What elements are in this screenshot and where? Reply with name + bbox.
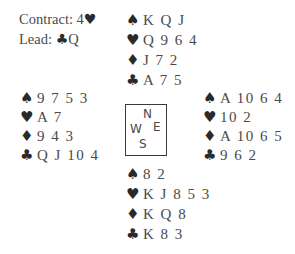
club-icon: ♣ (20, 145, 34, 165)
east-clubs-cards: 9 6 2 (220, 145, 258, 165)
club-icon: ♣ (126, 70, 140, 90)
south-spades-cards: 8 2 (143, 164, 166, 184)
east-hearts-cards: 10 2 (220, 107, 252, 127)
north-hearts-cards: Q 9 6 4 (143, 30, 198, 50)
compass-north: N (143, 108, 152, 120)
contract-label: Contract: (19, 11, 73, 27)
north-clubs-cards: A 7 5 (143, 70, 183, 90)
west-spades-cards: 9 7 5 3 (37, 88, 89, 108)
diamond-icon: ♦ (126, 204, 140, 224)
north-spades-cards: K Q J (143, 10, 186, 30)
west-clubs-cards: Q J 10 4 (37, 145, 99, 165)
club-icon: ♣ (126, 224, 140, 244)
south-clubs-cards: K 8 3 (143, 224, 184, 244)
heart-icon: ♥ (203, 107, 217, 127)
compass-west: W (130, 123, 142, 135)
spade-icon: ♠ (20, 88, 34, 108)
lead-label: Lead: (19, 31, 52, 47)
heart-icon: ♥ (84, 11, 97, 27)
diamond-icon: ♦ (126, 50, 140, 70)
south-hearts-cards: K J 8 5 3 (143, 184, 211, 204)
contract-level: 4 (77, 11, 84, 27)
compass-south: S (139, 138, 147, 150)
compass-box: N W E S (125, 104, 167, 156)
spade-icon: ♠ (203, 88, 217, 108)
diamond-icon: ♦ (20, 126, 34, 146)
east-spades-cards: A 10 6 4 (220, 88, 283, 108)
spade-icon: ♠ (126, 164, 140, 184)
lead-card: Q (68, 31, 78, 47)
lead-line: Lead: ♣Q (19, 29, 79, 49)
west-diamonds-cards: 9 4 3 (37, 126, 75, 146)
club-icon: ♣ (56, 31, 69, 47)
compass-east: E (153, 121, 161, 133)
north-diamonds-cards: J 7 2 (143, 50, 179, 70)
diamond-icon: ♦ (203, 126, 217, 146)
south-diamonds-cards: K Q 8 (143, 204, 187, 224)
west-hearts-cards: A 7 (37, 107, 63, 127)
heart-icon: ♥ (20, 107, 34, 127)
contract-line: Contract: 4♥ (19, 9, 96, 29)
club-icon: ♣ (203, 145, 217, 165)
heart-icon: ♥ (126, 184, 140, 204)
spade-icon: ♠ (126, 10, 140, 30)
heart-icon: ♥ (126, 30, 140, 50)
east-diamonds-cards: A 10 6 5 (220, 126, 283, 146)
